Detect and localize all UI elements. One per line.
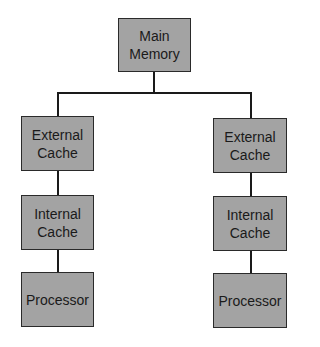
right-internal-cache-label: Internal Cache [227, 206, 274, 242]
connector-horizontal-bus [57, 92, 251, 94]
left-internal-cache-box: Internal Cache [21, 195, 94, 250]
connector-right-down [250, 92, 252, 119]
left-external-cache-label: External Cache [32, 126, 83, 162]
connector-right-ext-int [250, 172, 252, 197]
main-memory-label: Main Memory [129, 27, 180, 63]
right-processor-box: Processor [213, 273, 287, 328]
connector-right-int-proc [250, 250, 252, 274]
left-processor-box: Processor [21, 272, 94, 327]
right-external-cache-box: External Cache [213, 118, 287, 173]
left-external-cache-box: External Cache [21, 116, 94, 171]
connector-left-ext-int [57, 170, 59, 196]
right-internal-cache-box: Internal Cache [213, 196, 287, 251]
right-processor-label: Processor [218, 292, 281, 310]
main-memory-box: Main Memory [118, 18, 191, 72]
left-processor-label: Processor [26, 291, 89, 309]
connector-main-down [153, 71, 155, 93]
connector-left-down [57, 92, 59, 117]
connector-left-int-proc [57, 249, 59, 273]
right-external-cache-label: External Cache [224, 128, 275, 164]
left-internal-cache-label: Internal Cache [34, 205, 81, 241]
